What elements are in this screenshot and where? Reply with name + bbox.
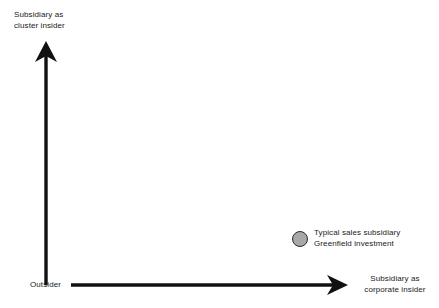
axes-group (0, 0, 439, 308)
data-point-group[interactable]: Typical sales subsidiary Greenfield inve… (292, 228, 400, 249)
arrow-up-icon (35, 41, 57, 62)
axis-origin-label: Outsider (30, 279, 61, 290)
y-axis-top-label: Subsidiary as cluster insider (14, 9, 65, 31)
data-point-label: Typical sales subsidiary Greenfield inve… (314, 228, 400, 249)
x-axis-right-label: Subsidiary as corporate insider (353, 273, 437, 295)
filled-circle-marker-icon (292, 231, 308, 247)
arrow-right-icon (327, 275, 348, 295)
diagram-canvas: Subsidiary as cluster insider Outsider S… (0, 0, 439, 308)
